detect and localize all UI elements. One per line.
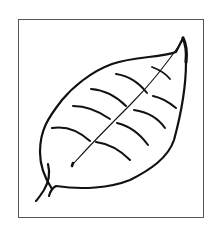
- leaf-illustration: [0, 0, 222, 233]
- leaf-icon: [36, 38, 186, 201]
